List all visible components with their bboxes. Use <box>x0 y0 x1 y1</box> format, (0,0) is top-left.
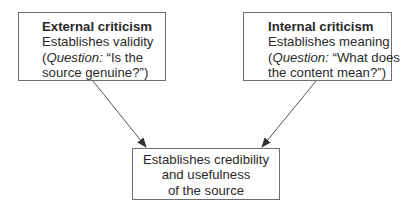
internal-criticism-purpose: Establishes meaning <box>268 34 391 49</box>
result-line-1: Establishes credibility <box>133 152 279 167</box>
external-criticism-question-line-2: source genuine?”) <box>42 65 165 80</box>
external-criticism-box: External criticism Establishes validity … <box>18 12 166 81</box>
question-label: Question: <box>46 50 102 65</box>
result-line-3: of the source <box>133 183 279 198</box>
external-criticism-purpose: Establishes validity <box>42 34 165 49</box>
internal-criticism-question-line-1: (Question: “What does <box>268 50 391 65</box>
external-criticism-question-line-1: (Question: “Is the <box>42 50 165 65</box>
internal-criticism-box: Internal criticism Establishes meaning (… <box>243 12 392 81</box>
arrow-internal-to-result <box>262 81 316 147</box>
question-text: “Is the <box>103 50 143 65</box>
internal-criticism-title: Internal criticism <box>268 19 391 34</box>
result-box: Establishes credibility and usefulness o… <box>132 148 280 200</box>
internal-criticism-question-line-2: the content mean?”) <box>268 65 391 80</box>
arrow-external-to-result <box>93 81 146 147</box>
question-text: “What does <box>329 50 400 65</box>
question-label: Question: <box>272 50 328 65</box>
external-criticism-title: External criticism <box>42 19 165 34</box>
result-line-2: and usefulness <box>133 167 279 182</box>
